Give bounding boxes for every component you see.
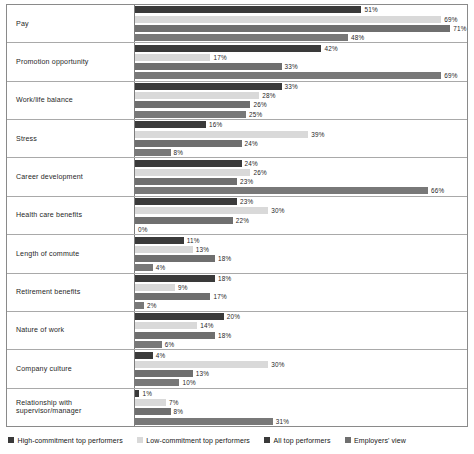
bars-cell: 51%69%71%48% <box>135 5 467 42</box>
bar <box>135 54 210 61</box>
bar-group-item: 10% <box>135 379 467 386</box>
bar <box>135 16 441 23</box>
bars-cell: 23%30%22%0% <box>135 197 467 234</box>
bars-cell: 24%26%23%66% <box>135 158 467 195</box>
bar <box>135 131 308 138</box>
category-label-cell: Stress <box>7 120 135 157</box>
bar-value-label: 71% <box>453 25 466 32</box>
bar-value-label: 25% <box>249 111 262 118</box>
legend-label: Employers' view <box>354 437 406 444</box>
bar-value-label: 7% <box>169 399 179 406</box>
bar-group-item: 18% <box>135 255 467 262</box>
bar-value-label: 24% <box>245 140 258 147</box>
legend-item[interactable]: Low-commitment top performers <box>137 437 250 444</box>
bar <box>135 111 246 118</box>
bar-group-item: 6% <box>135 341 467 348</box>
bar-value-label: 30% <box>271 361 284 368</box>
bar-value-label: 2% <box>147 302 157 309</box>
bar-group-item: 30% <box>135 207 467 214</box>
category-label-cell: Promotion opportunity <box>7 43 135 80</box>
category-row: Work/life balance33%28%26%25% <box>7 82 467 120</box>
bar-value-label: 0% <box>138 226 148 233</box>
bar <box>135 121 206 128</box>
category-label-cell: Pay <box>7 5 135 42</box>
category-label-cell: Health care benefits <box>7 197 135 234</box>
category-label: Nature of work <box>16 326 64 334</box>
category-row: Career development24%26%23%66% <box>7 158 467 196</box>
bar <box>135 237 184 244</box>
bars-cell: 11%13%18%4% <box>135 235 467 272</box>
bar-group-item: 2% <box>135 302 467 309</box>
bar-value-label: 66% <box>431 187 444 194</box>
bar <box>135 246 193 253</box>
bar <box>135 160 242 167</box>
bar-value-label: 11% <box>187 237 200 244</box>
legend-label: High-commitment top performers <box>18 437 123 444</box>
bar <box>135 313 224 320</box>
plot-area: Pay51%69%71%48%Promotion opportunity42%1… <box>6 4 468 427</box>
bar <box>135 352 153 359</box>
bar-group-item: 42% <box>135 45 467 52</box>
bar <box>135 187 428 194</box>
bar <box>135 25 450 32</box>
bar-value-label: 4% <box>156 264 166 271</box>
bar <box>135 264 153 271</box>
legend-item[interactable]: Employers' view <box>345 437 406 444</box>
bar <box>135 72 441 79</box>
bar <box>135 275 215 282</box>
grouped-bar-chart: Pay51%69%71%48%Promotion opportunity42%1… <box>0 0 474 454</box>
bar-value-label: 33% <box>285 63 298 70</box>
bar <box>135 45 321 52</box>
legend-swatch-icon <box>137 437 143 443</box>
category-label-cell: Nature of work <box>7 312 135 349</box>
bar <box>135 83 282 90</box>
bar-value-label: 10% <box>182 379 195 386</box>
bar-group-item: 71% <box>135 25 467 32</box>
bars-cell: 42%17%33%69% <box>135 43 467 80</box>
bar <box>135 178 237 185</box>
bar-group-item: 28% <box>135 92 467 99</box>
category-row: Health care benefits23%30%22%0% <box>7 197 467 235</box>
bar-group-item: 69% <box>135 16 467 23</box>
bar-group-item: 1% <box>135 390 467 397</box>
bar-value-label: 39% <box>311 131 324 138</box>
category-label: Promotion opportunity <box>16 58 89 66</box>
category-row: Retirement benefits18%9%17%2% <box>7 274 467 312</box>
bar-value-label: 69% <box>444 16 457 23</box>
bar-group-item: 25% <box>135 111 467 118</box>
bar-value-label: 13% <box>196 246 209 253</box>
legend-item[interactable]: All top performers <box>264 437 331 444</box>
bar-group-item: 8% <box>135 149 467 156</box>
bar-group-item: 66% <box>135 187 467 194</box>
bars-cell: 33%28%26%25% <box>135 82 467 119</box>
bar <box>135 341 162 348</box>
bar <box>135 379 179 386</box>
bar-group-item: 17% <box>135 293 467 300</box>
category-row: Length of commute11%13%18%4% <box>7 235 467 273</box>
bar-group-item: 14% <box>135 322 467 329</box>
bar <box>135 302 144 309</box>
category-label: Health care benefits <box>16 211 82 219</box>
bars-cell: 20%14%18%6% <box>135 312 467 349</box>
legend-item[interactable]: High-commitment top performers <box>8 437 123 444</box>
bar <box>135 408 171 415</box>
bar-group-item: 13% <box>135 246 467 253</box>
bar-group-item: 23% <box>135 178 467 185</box>
bar-value-label: 16% <box>209 121 222 128</box>
bar-value-label: 42% <box>324 45 337 52</box>
bar-group-item: 7% <box>135 399 467 406</box>
bar-value-label: 17% <box>213 54 226 61</box>
bar <box>135 255 215 262</box>
bar-value-label: 17% <box>213 293 226 300</box>
bar <box>135 140 242 147</box>
bar-group-item: 26% <box>135 169 467 176</box>
category-label-cell: Career development <box>7 158 135 195</box>
bar <box>135 149 171 156</box>
bar <box>135 198 237 205</box>
bar-group-item: 11% <box>135 237 467 244</box>
bar <box>135 34 348 41</box>
bar <box>135 284 175 291</box>
legend-label: All top performers <box>273 437 330 444</box>
bar <box>135 92 259 99</box>
category-label: Company culture <box>16 365 72 373</box>
